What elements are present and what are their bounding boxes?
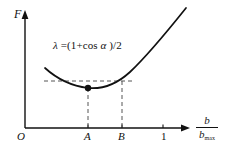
figure-canvas: F O A B 1 λ =(1+cos α )/2 b bmax xyxy=(0,0,226,162)
minimum-point-marker xyxy=(85,85,91,91)
x-tick-label-one: 1 xyxy=(161,131,167,142)
x-axis-denominator-base: b xyxy=(199,128,205,140)
x-axis-arrowhead xyxy=(181,125,190,132)
x-axis-denominator-subscript: max xyxy=(205,135,215,141)
formula-body: =(1+cos xyxy=(58,39,101,51)
plot-svg xyxy=(0,0,226,162)
formula-suffix: )/2 xyxy=(106,39,121,51)
origin-label: O xyxy=(17,131,25,142)
lambda-formula-annotation: λ =(1+cos α )/2 xyxy=(53,40,122,51)
x-tick-label-b: B xyxy=(118,131,125,142)
x-tick-label-a: A xyxy=(84,131,91,142)
x-axis-numerator: b xyxy=(196,115,218,127)
x-axis-label-fraction: b bmax xyxy=(196,115,218,140)
y-axis-arrowhead xyxy=(22,10,29,19)
x-axis-denominator: bmax xyxy=(196,128,218,140)
y-axis-label: F xyxy=(14,8,21,20)
